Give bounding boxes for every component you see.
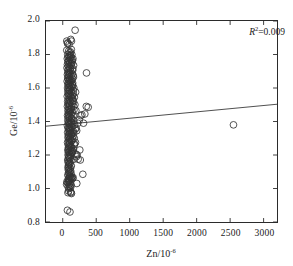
y-tick-label: 1.6 xyxy=(14,83,40,93)
x-tick-label: 1000 xyxy=(120,229,140,239)
x-axis-title-exponent: -6 xyxy=(170,247,175,254)
y-tick-label: 2.0 xyxy=(14,15,40,25)
y-axis-title-exponent: -6 xyxy=(7,106,14,111)
x-tick-label: 500 xyxy=(88,229,103,239)
scatter-chart-figure: Ge/10-6 Zn/10-6 R2=0.009 0.81.01.21.41.6… xyxy=(0,0,293,266)
y-tick-label: 1.4 xyxy=(14,117,40,127)
r-squared-annotation: R2=0.009 xyxy=(249,25,285,37)
x-tick-label: 2000 xyxy=(187,229,207,239)
r-squared-value: =0.009 xyxy=(258,27,285,37)
data-point xyxy=(230,121,237,128)
data-point xyxy=(72,27,79,34)
scatter-points xyxy=(63,27,237,215)
data-point xyxy=(83,70,90,77)
x-tick-label: 3000 xyxy=(255,229,275,239)
y-tick-label: 1.8 xyxy=(14,49,40,59)
data-point xyxy=(79,171,86,178)
x-tick-label: 0 xyxy=(59,229,64,239)
x-tick-label: 1500 xyxy=(153,229,173,239)
plot-area xyxy=(45,20,278,223)
x-tick-label: 2500 xyxy=(221,229,241,239)
y-tick-label: 0.8 xyxy=(14,218,40,228)
data-layer xyxy=(46,21,277,222)
y-tick-label: 1.2 xyxy=(14,151,40,161)
x-axis-title: Zn/10-6 xyxy=(146,247,175,259)
x-axis-title-base: Zn/10 xyxy=(146,248,170,259)
y-tick-label: 1.0 xyxy=(14,184,40,194)
